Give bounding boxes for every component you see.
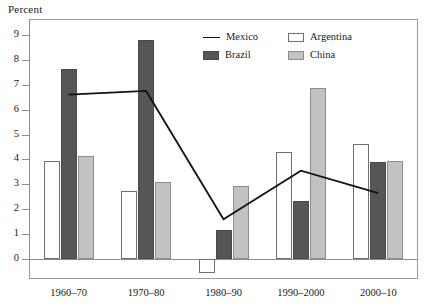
x-axis-label: 1960–70 (50, 287, 87, 298)
y-tick (22, 60, 30, 61)
bar-argentina-1990–2000 (276, 152, 292, 259)
x-axis-label: 1990–2000 (277, 287, 324, 298)
legend-label-mexico: Mexico (226, 31, 258, 43)
bar-china-2000–10 (387, 161, 403, 259)
x-axis-label: 2000–10 (360, 287, 397, 298)
y-tick (22, 110, 30, 111)
y-tick-label: 8 (0, 54, 19, 64)
bar-brazil-1960–70 (61, 69, 77, 259)
legend-item-china: China (288, 49, 373, 61)
y-tick (22, 85, 30, 86)
box-swatch-light-icon (288, 51, 304, 60)
bar-brazil-1980–90 (216, 230, 232, 259)
zero-baseline (30, 259, 418, 260)
bar-brazil-1970–80 (138, 40, 154, 259)
bar-china-1980–90 (233, 186, 249, 259)
bar-china-1960–70 (78, 156, 94, 259)
y-tick (22, 159, 30, 160)
y-tick-label: 1 (0, 228, 19, 238)
legend-label-brazil: Brazil (225, 49, 251, 61)
chart-container: Percent 0123456789 1960–701970–801980–90… (0, 0, 424, 308)
box-swatch-white-icon (288, 33, 304, 42)
x-axis-label: 1970–80 (128, 287, 165, 298)
y-tick-label: 7 (0, 79, 19, 89)
bar-brazil-2000–10 (370, 162, 386, 259)
bar-china-1970–80 (155, 182, 171, 259)
y-tick-label: 5 (0, 129, 19, 139)
y-tick (22, 259, 30, 260)
y-tick (22, 184, 30, 185)
legend-item-argentina: Argentina (288, 31, 373, 43)
legend-item-mexico: Mexico (203, 31, 288, 43)
y-tick (22, 35, 30, 36)
bar-argentina-2000–10 (353, 144, 369, 259)
x-axis-label: 1980–90 (205, 287, 242, 298)
bar-argentina-1980–90 (199, 259, 215, 273)
y-tick (22, 135, 30, 136)
legend-row-2: Brazil China (203, 49, 373, 61)
line-swatch-icon (203, 37, 220, 38)
bar-argentina-1960–70 (44, 161, 60, 259)
y-tick-label: 0 (0, 253, 19, 263)
y-tick-label: 2 (0, 203, 19, 213)
chart-legend: Mexico Argentina Brazil China (203, 31, 373, 67)
legend-row-1: Mexico Argentina (203, 31, 373, 43)
y-tick-label: 6 (0, 104, 19, 114)
y-tick (22, 234, 30, 235)
legend-label-china: China (310, 49, 335, 61)
y-axis-title: Percent (8, 3, 42, 15)
legend-label-argentina: Argentina (310, 31, 352, 43)
y-tick (22, 209, 30, 210)
bar-brazil-1990–2000 (293, 201, 309, 260)
box-swatch-dark-icon (203, 51, 219, 60)
y-tick-label: 3 (0, 178, 19, 188)
y-tick-label: 4 (0, 153, 19, 163)
bar-china-1990–2000 (310, 88, 326, 259)
bar-argentina-1970–80 (121, 191, 137, 259)
legend-item-brazil: Brazil (203, 49, 288, 61)
y-tick-label: 9 (0, 29, 19, 39)
